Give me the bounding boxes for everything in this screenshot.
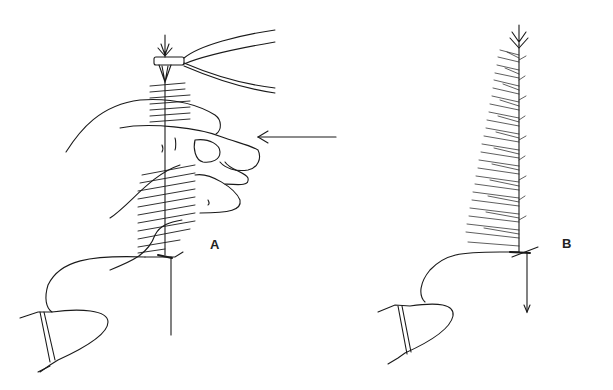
hackle-hatching-lower: [138, 165, 195, 253]
hackle-pliers-icon: [154, 30, 275, 93]
hand-icon: [66, 100, 260, 218]
hook-shank: [46, 252, 183, 335]
hackle-fibers: [466, 50, 526, 246]
drawing-canvas: [0, 0, 613, 390]
illustration: A B: [0, 0, 613, 390]
bobbin-icon: [378, 304, 453, 364]
push-arrow-icon: [258, 131, 336, 143]
panel-b-drawing: [378, 25, 538, 364]
panel-label-a: A: [210, 237, 219, 252]
panel-label-b: B: [562, 236, 571, 251]
bobbin-icon: [20, 310, 108, 372]
panel-a-drawing: [20, 30, 336, 372]
